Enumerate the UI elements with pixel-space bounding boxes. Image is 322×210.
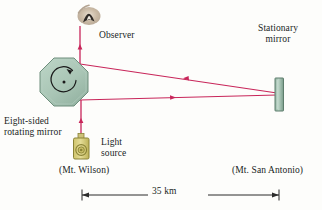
label-light-source: Light source	[101, 137, 126, 158]
stationary-mirror-body	[275, 78, 284, 111]
physics-diagram-figure: Observer Stationary mirror Eight-sided r…	[0, 0, 322, 210]
label-distance: 35 km	[152, 186, 177, 197]
label-rotating-mirror: Eight-sided rotating mirror	[4, 116, 62, 137]
label-stationary-mirror: Stationary mirror	[258, 23, 298, 44]
rotating-mirror-octagon	[40, 58, 88, 106]
ray-arrow-icon	[78, 44, 83, 50]
dimension-arrow-right	[272, 192, 279, 197]
stationary-mirror-icon	[275, 78, 284, 111]
label-site-right: (Mt. San Antonio)	[232, 165, 303, 176]
label-site-left: (Mt. Wilson)	[59, 165, 109, 176]
ray-arrow-icon	[79, 118, 84, 123]
ray-segment	[80, 64, 277, 93]
observer-eye-icon	[78, 5, 101, 25]
rotation-center-dot	[63, 81, 66, 84]
light-source-icon	[74, 134, 90, 160]
dimension-line-icon	[82, 190, 279, 201]
ray-mirror-to-stationary	[80, 95, 277, 100]
ray-mirror-to-observer	[78, 26, 83, 64]
ray-segment	[80, 95, 277, 100]
light-source-lens-inner	[80, 149, 83, 152]
ray-source-to-mirror	[79, 100, 84, 137]
ray-arrow-icon	[170, 95, 176, 100]
label-observer: Observer	[99, 30, 135, 41]
dimension-arrow-left	[82, 192, 89, 197]
ray-stationary-to-mirror	[80, 64, 277, 93]
